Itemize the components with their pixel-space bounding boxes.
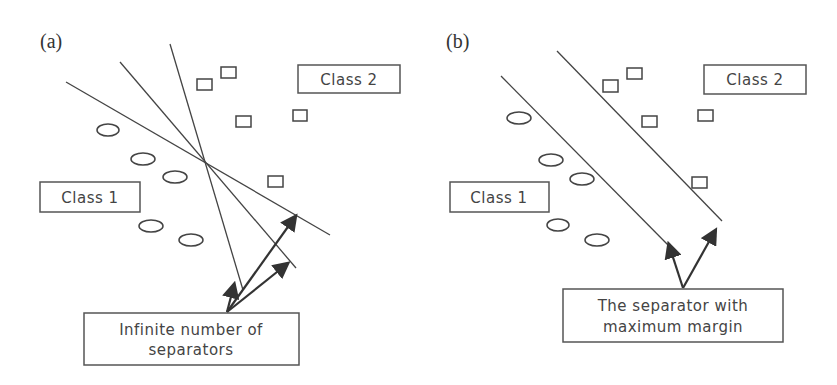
pointer-arrows: [669, 231, 715, 288]
margin-line-1: [501, 76, 668, 245]
svm-separator-diagram: (a) Class 2 Class 1: [0, 0, 837, 385]
class2-box: Class 2: [298, 65, 400, 93]
panel-b: (b) Class 2 Class 1: [446, 30, 806, 342]
arrow-icon: [669, 245, 683, 288]
square-point: [698, 110, 713, 121]
ellipse-point: [547, 219, 569, 231]
panel-b-label: (b): [446, 30, 469, 53]
ellipse-point: [97, 124, 119, 136]
ellipse-point: [139, 220, 163, 232]
caption-line-1: The separator with: [597, 297, 749, 315]
ellipse-point: [131, 153, 155, 165]
ellipse-point: [570, 173, 594, 185]
panel-a-label: (a): [40, 30, 62, 53]
square-point: [268, 176, 283, 187]
ellipse-point: [585, 234, 609, 246]
ellipse-point: [179, 234, 203, 246]
class1-box: Class 1: [40, 182, 140, 212]
square-point: [293, 110, 307, 121]
square-point: [627, 68, 642, 79]
arrow-icon: [683, 231, 715, 288]
pointer-arrows: [227, 217, 295, 312]
caption-line-2: separators: [148, 341, 233, 359]
class2-points: [197, 67, 307, 187]
ellipse-point: [163, 171, 187, 183]
square-point: [197, 79, 212, 90]
caption-box-infinite: Infinite number of separators: [84, 313, 299, 365]
square-point: [603, 80, 618, 92]
square-point: [692, 177, 707, 188]
square-point: [236, 116, 251, 127]
class1-points: [507, 112, 609, 246]
class1-label: Class 1: [61, 189, 118, 207]
caption-line-2: maximum margin: [603, 318, 743, 336]
class1-box: Class 1: [450, 182, 549, 212]
caption-line-1: Infinite number of: [119, 321, 263, 339]
square-point: [642, 116, 657, 127]
class2-label: Class 2: [726, 71, 783, 89]
ellipse-point: [507, 112, 531, 124]
square-point: [221, 67, 236, 78]
class2-points: [603, 68, 713, 188]
class2-box: Class 2: [704, 65, 806, 94]
ellipse-point: [539, 154, 563, 166]
caption-box-max-margin: The separator with maximum margin: [563, 289, 783, 342]
class2-label: Class 2: [320, 71, 377, 89]
panel-a: (a) Class 2 Class 1: [40, 30, 400, 365]
class1-label: Class 1: [470, 189, 527, 207]
